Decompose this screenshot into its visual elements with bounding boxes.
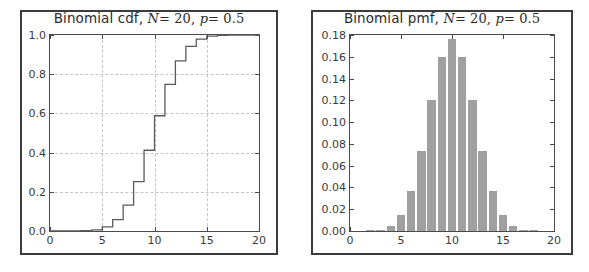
y-tick-mark — [350, 209, 354, 210]
cdf-line — [50, 35, 259, 231]
pmf-bar — [417, 151, 425, 231]
y-axis-tick-label: 0.10 — [322, 116, 351, 129]
y-axis-tick-label: 0.4 — [29, 146, 51, 159]
y-axis-tick-label: 0.18 — [322, 29, 351, 42]
pmf-title: Binomial pmf, N= 20, p= 0.5 — [311, 10, 573, 26]
y-axis-tick-label: 0.06 — [322, 159, 351, 172]
pmf-bar — [499, 215, 507, 231]
pmf-bar — [458, 57, 466, 231]
y-axis-tick-label: 0.02 — [322, 203, 351, 216]
pmf-bar — [519, 230, 527, 231]
y-tick-mark — [350, 166, 354, 167]
x-tick-mark — [350, 35, 351, 39]
y-axis-tick-label: 0.6 — [29, 107, 51, 120]
x-axis-tick-label: 10 — [445, 231, 459, 247]
x-tick-mark — [503, 35, 504, 39]
cdf-title-n-symbol: N — [148, 11, 159, 26]
pmf-bar — [489, 191, 497, 231]
pmf-title-n-symbol: N — [443, 11, 454, 26]
x-axis-tick-label: 0 — [47, 231, 54, 247]
y-axis-tick-label: 0.12 — [322, 94, 351, 107]
x-axis-tick-label: 15 — [496, 231, 510, 247]
pmf-axes: 0.000.020.040.060.080.100.120.140.160.18… — [349, 34, 555, 232]
pmf-title-p-value: = 0.5 — [504, 11, 540, 26]
binomial-cdf-chart: Binomial cdf, N= 20, p= 0.5 0.00.20.40.6… — [20, 10, 278, 255]
y-tick-mark — [350, 100, 354, 101]
x-tick-mark — [259, 35, 260, 39]
x-axis-tick-label: 5 — [398, 231, 405, 247]
pmf-bar — [376, 230, 384, 231]
x-tick-mark — [554, 35, 555, 39]
pmf-bar — [397, 215, 405, 231]
y-axis-tick-label: 0.08 — [322, 137, 351, 150]
y-axis-tick-label: 0.14 — [322, 72, 351, 85]
y-tick-mark — [350, 187, 354, 188]
pmf-bar — [387, 226, 395, 231]
x-tick-mark — [401, 35, 402, 39]
y-tick-mark — [350, 79, 354, 80]
x-axis-tick-label: 20 — [252, 231, 266, 247]
cdf-title-text: Binomial cdf, — [54, 10, 143, 26]
pmf-title-n-value: = 20, — [455, 11, 491, 26]
pmf-title-p-symbol: p — [495, 11, 503, 26]
y-tick-mark — [550, 187, 554, 188]
y-tick-mark — [350, 144, 354, 145]
figure-canvas: Binomial cdf, N= 20, p= 0.5 0.00.20.40.6… — [0, 0, 589, 272]
x-axis-tick-label: 10 — [148, 231, 162, 247]
x-axis-tick-label: 5 — [99, 231, 106, 247]
pmf-bar — [478, 151, 486, 231]
y-tick-mark — [550, 209, 554, 210]
y-axis-tick-label: 0.2 — [29, 185, 51, 198]
pmf-title-text: Binomial pmf, — [344, 10, 439, 26]
y-tick-mark — [550, 79, 554, 80]
y-axis-tick-label: 0.16 — [322, 50, 351, 63]
cdf-axes: 0.00.20.40.60.81.005101520 — [49, 34, 260, 232]
cdf-title-p-symbol: p — [200, 11, 208, 26]
y-tick-mark — [550, 122, 554, 123]
x-axis-tick-label: 15 — [200, 231, 214, 247]
binomial-pmf-chart: Binomial pmf, N= 20, p= 0.5 0.000.020.04… — [311, 10, 573, 255]
cdf-title-p-value: = 0.5 — [208, 11, 244, 26]
pmf-bar — [509, 226, 517, 231]
y-tick-mark — [550, 144, 554, 145]
cdf-step-curve — [50, 35, 259, 231]
pmf-bar — [468, 100, 476, 231]
y-axis-tick-label: 1.0 — [29, 29, 51, 42]
pmf-bar — [448, 39, 456, 231]
pmf-bar — [427, 100, 435, 231]
y-tick-mark — [550, 166, 554, 167]
cdf-title-n-value: = 20, — [159, 11, 195, 26]
x-axis-tick-label: 0 — [347, 231, 354, 247]
pmf-bar — [366, 230, 374, 231]
x-axis-tick-label: 20 — [547, 231, 561, 247]
y-axis-tick-label: 0.8 — [29, 68, 51, 81]
pmf-bar — [529, 230, 537, 231]
y-tick-mark — [550, 57, 554, 58]
y-tick-mark — [350, 57, 354, 58]
pmf-bar — [407, 191, 415, 231]
y-tick-mark — [350, 122, 354, 123]
cdf-title: Binomial cdf, N= 20, p= 0.5 — [20, 10, 278, 26]
y-axis-tick-label: 0.04 — [322, 181, 351, 194]
pmf-bar — [438, 57, 446, 231]
y-tick-mark — [550, 100, 554, 101]
